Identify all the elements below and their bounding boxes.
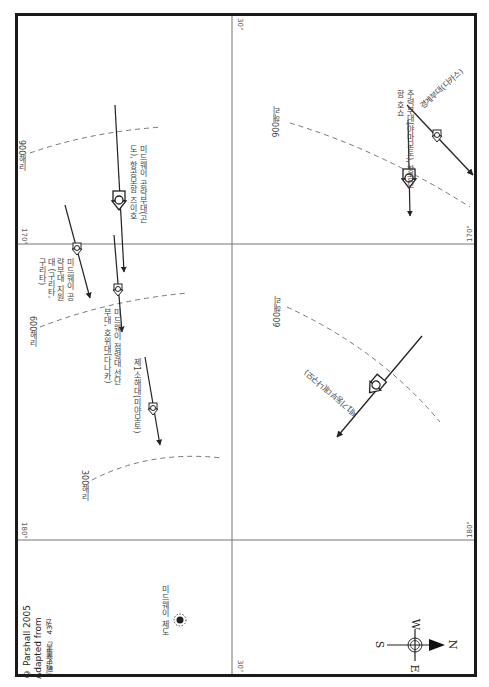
longitude-label-170-right: 170° bbox=[466, 225, 474, 242]
compass-s: S bbox=[373, 641, 386, 649]
longitude-label-180-right: 180° bbox=[466, 521, 474, 538]
range-label-900-left: 900해리 bbox=[17, 140, 26, 171]
force-label-main: 주력부대(야마모토), 항공모함 호쇼 bbox=[390, 90, 414, 190]
compass-e: E bbox=[408, 664, 421, 672]
longitude-label-170-left: 170° bbox=[20, 228, 28, 245]
force-label-transport: 미드웨이 점령대 선단부대, 호위대(다나카) bbox=[97, 308, 121, 388]
force-label-midway-invasion: 미드웨이 공략부대(곤도), 항공모함 즈이호 bbox=[123, 145, 147, 225]
range-label-900-right: 900해리 bbox=[272, 106, 281, 137]
range-label-600-right: 600해리 bbox=[273, 296, 282, 327]
compass-n: N bbox=[446, 640, 459, 650]
range-label-300-left: 300해리 bbox=[80, 470, 89, 501]
midway-operation-map: 30° 30° 170° 170° 180° 180° 900해리 900해리 … bbox=[0, 0, 489, 687]
landmark-label-midway: 미드웨이 제도 bbox=[160, 585, 169, 636]
latitude-label-bottom: 30° bbox=[236, 660, 244, 672]
compass-w: W bbox=[409, 619, 422, 630]
credit-line-1: © Parshall 2005 bbox=[22, 605, 32, 679]
range-label-600-left: 600해리 bbox=[28, 316, 37, 347]
longitude-label-180-left: 180° bbox=[20, 522, 28, 539]
map-credit: © Parshall 2005 Adapted from 『戰史叢書』 43권 bbox=[22, 605, 56, 679]
force-label-minesweeper: 제1소해대(미야모토) bbox=[132, 358, 141, 433]
credit-line-2: Adapted from bbox=[33, 617, 43, 679]
force-label-support: 미드웨이 공략부대 지원대 (구리타, 구리타) bbox=[34, 258, 74, 306]
latitude-label-top: 30° bbox=[236, 18, 244, 30]
credit-line-3: 『戰史叢書』 43권 bbox=[46, 619, 54, 679]
